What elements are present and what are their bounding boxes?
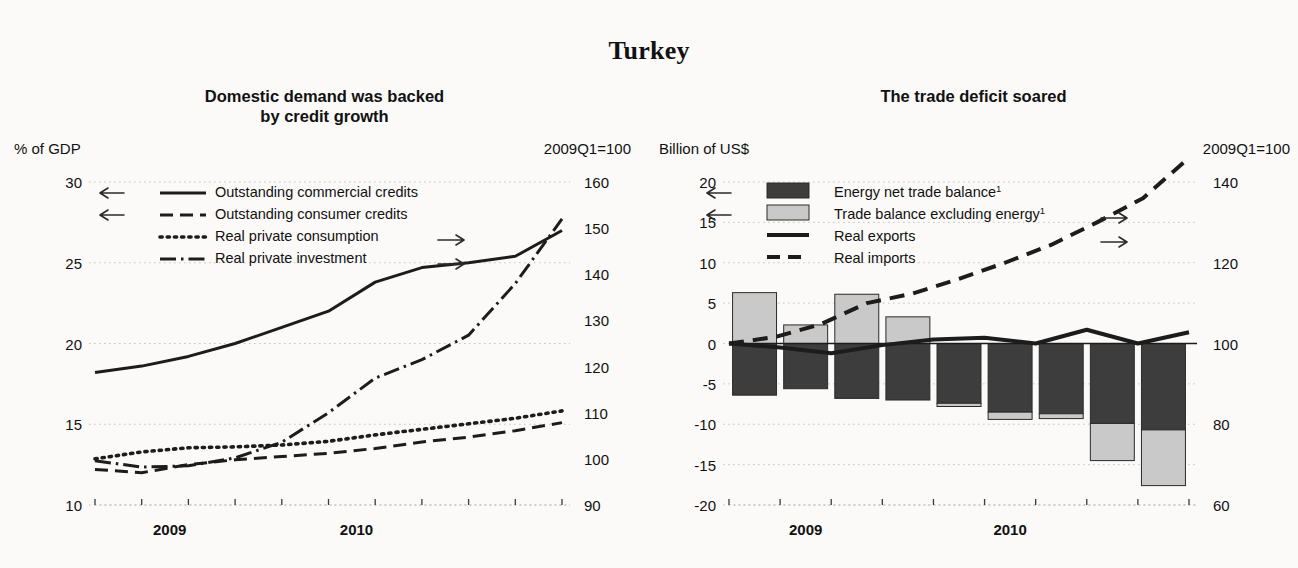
bar-trade-ex-energy (1039, 414, 1083, 419)
bar-energy-net (937, 344, 981, 404)
y-axis-right-ticks: 90100110120130140150160 (584, 174, 609, 514)
svg-text:Real imports: Real imports (834, 250, 915, 266)
legend-swatch-1 (767, 205, 809, 220)
svg-text:30: 30 (65, 174, 82, 191)
svg-text:90: 90 (584, 497, 601, 514)
bar-trade-ex-energy (733, 293, 777, 344)
svg-text:140: 140 (1213, 174, 1238, 191)
svg-text:Outstanding commercial credits: Outstanding commercial credits (215, 184, 418, 200)
y-axis-right-ticks: 6080100120140 (1213, 174, 1238, 514)
svg-text:120: 120 (1213, 255, 1238, 272)
left-chart-svg: 1015202530901001101201301401501602009201… (0, 0, 649, 568)
svg-text:5: 5 (708, 295, 716, 312)
legend-right: Energy net trade balance1Trade balance e… (707, 183, 1045, 266)
bar-trade-ex-energy (988, 412, 1032, 419)
legend-left: Outstanding commercial creditsOutstandin… (100, 184, 418, 266)
svg-text:-5: -5 (703, 376, 716, 393)
legend-swatch-0 (767, 183, 809, 198)
bar-energy-net (1039, 344, 1083, 414)
bar-energy-net (1090, 344, 1134, 424)
svg-text:Real private investment: Real private investment (215, 250, 367, 266)
y-axis-left-ticks: 1015202530 (65, 174, 82, 514)
svg-text:130: 130 (584, 312, 609, 329)
bar-trade-ex-energy (1090, 423, 1134, 460)
series-line-2 (95, 411, 562, 459)
bar-trade-ex-energy (937, 403, 981, 406)
svg-text:Trade balance excluding energy: Trade balance excluding energy1 (834, 205, 1045, 222)
svg-text:10: 10 (699, 255, 716, 272)
svg-text:2010: 2010 (340, 521, 373, 538)
right-chart-svg: -20-15-10-505101520608010012014020092010… (649, 0, 1298, 568)
svg-text:110: 110 (584, 405, 608, 422)
svg-text:0: 0 (708, 336, 716, 353)
inplot-arrows-right (1101, 213, 1127, 247)
bar-energy-net (886, 344, 930, 401)
y-axis-left-ticks: -20-15-10-505101520 (694, 174, 716, 514)
svg-text:10: 10 (65, 497, 82, 514)
bar-group (733, 293, 1186, 486)
inplot-arrows-left (438, 235, 464, 269)
bar-energy-net (1141, 344, 1185, 430)
svg-text:Real exports: Real exports (834, 228, 915, 244)
svg-text:2009: 2009 (789, 521, 822, 538)
chart-panel-trade-deficit: The trade deficit soared Billion of US$ … (649, 0, 1298, 568)
bar-energy-net (988, 344, 1032, 413)
svg-text:100: 100 (1213, 336, 1238, 353)
svg-text:60: 60 (1213, 497, 1230, 514)
svg-text:150: 150 (584, 220, 609, 237)
svg-text:20: 20 (65, 336, 82, 353)
svg-text:15: 15 (699, 214, 716, 231)
bar-trade-ex-energy (1141, 430, 1185, 486)
svg-text:2010: 2010 (993, 521, 1026, 538)
svg-text:120: 120 (584, 359, 609, 376)
svg-text:Outstanding consumer credits: Outstanding consumer credits (215, 206, 408, 222)
svg-text:-15: -15 (694, 457, 716, 474)
svg-text:2009: 2009 (153, 521, 186, 538)
chart-panel-domestic-demand: Domestic demand was backed by credit gro… (0, 0, 649, 568)
svg-text:Energy net trade balance1: Energy net trade balance1 (834, 183, 1001, 200)
svg-text:Real private consumption: Real private consumption (215, 228, 379, 244)
svg-text:25: 25 (65, 255, 82, 272)
bar-energy-net (733, 344, 777, 396)
svg-text:15: 15 (65, 416, 82, 433)
svg-text:80: 80 (1213, 416, 1230, 433)
svg-text:100: 100 (584, 451, 609, 468)
svg-text:160: 160 (584, 174, 609, 191)
svg-text:-10: -10 (694, 416, 716, 433)
x-axis: 20092010 (95, 499, 570, 538)
svg-text:-20: -20 (694, 497, 716, 514)
svg-text:140: 140 (584, 266, 609, 283)
